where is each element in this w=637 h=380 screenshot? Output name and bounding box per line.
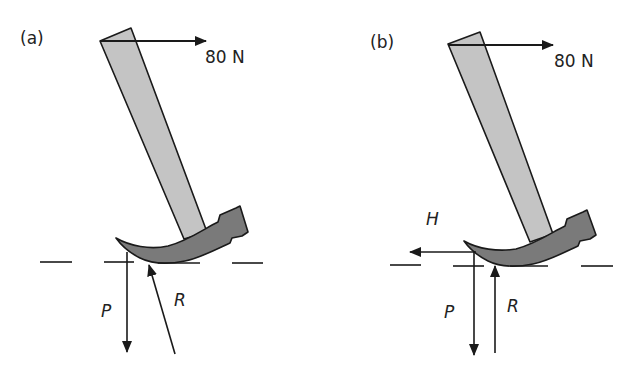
panel-b-label: (b) xyxy=(370,32,394,52)
hammer-handle xyxy=(448,32,553,242)
force-r-label: R xyxy=(174,290,186,310)
force-h-label: H xyxy=(426,209,439,229)
panel-b: (b) 80 N H P R xyxy=(370,32,613,355)
hammer-force-diagram: (a) 80 N P R (b) 80 N xyxy=(0,0,637,380)
force-p-label: P xyxy=(101,301,112,321)
force-r-label: R xyxy=(507,296,519,316)
applied-force-label: 80 N xyxy=(205,47,245,67)
applied-force-label: 80 N xyxy=(554,51,594,71)
panel-a-label: (a) xyxy=(20,28,44,48)
force-p-label: P xyxy=(444,302,455,322)
hammer-handle xyxy=(100,28,207,239)
panel-a: (a) 80 N P R xyxy=(20,28,263,354)
force-r-arrow xyxy=(149,265,175,354)
